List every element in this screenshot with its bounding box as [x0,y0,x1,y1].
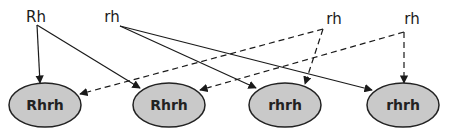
child-node-c1: Rhrh [9,83,81,127]
parent-label-p4: rh [404,10,419,28]
child-node-c4: rhrh [367,83,439,127]
edge-p4-to-c2 [200,32,404,90]
parent-label-p3: rh [326,10,341,28]
edge-p2-to-c3 [120,26,256,88]
child-label: Rhrh [150,97,188,113]
child-node-c3: rhrh [249,83,321,127]
child-label: Rhrh [26,97,64,113]
punnett-cross-diagram: Rhrh Rhrh rhrh rhrh Rh rh rh rh [0,0,451,140]
child-node-c2: Rhrh [133,83,205,127]
edge-p2-to-c4 [120,26,372,90]
parent-label-p2: rh [104,8,119,26]
edge-p1-to-c2 [37,25,140,88]
child-label: rhrh [268,97,302,113]
child-label: rhrh [386,97,420,113]
edges [37,25,404,94]
edge-p1-to-c1 [37,25,40,83]
parent-label-p1: Rh [26,8,46,26]
